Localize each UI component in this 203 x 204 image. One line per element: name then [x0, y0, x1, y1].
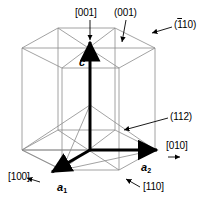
unit-cell-drawing	[0, 0, 203, 204]
crystal-unit-cell-figure: [001] (001) (110) (112) [010] [100] [110…	[0, 0, 203, 204]
label-direction-110: [110]	[143, 182, 164, 192]
label-direction-100: [100]	[8, 172, 30, 182]
label-plane-001: (001)	[114, 8, 137, 18]
label-direction-010: [010]	[166, 141, 188, 151]
leader-001-plane	[122, 20, 126, 42]
a1-axis-arrow	[52, 150, 90, 172]
label-plane-110bar: (110)	[174, 20, 196, 30]
label-direction-001: [001]	[75, 8, 97, 18]
a1-subscript: 1	[63, 187, 67, 194]
leader-lines	[27, 20, 180, 187]
leader-112-plane	[124, 118, 168, 130]
leader-110-direction	[126, 179, 140, 187]
label-vector-a2: a2	[141, 162, 151, 173]
leader-110bar-plane	[152, 27, 172, 33]
label-vector-c: c	[79, 57, 85, 68]
label-vector-a1: a1	[57, 182, 67, 193]
a2-subscript: 2	[147, 167, 151, 174]
rest-index: 10)	[182, 19, 196, 30]
label-plane-112: (112)	[170, 112, 192, 122]
